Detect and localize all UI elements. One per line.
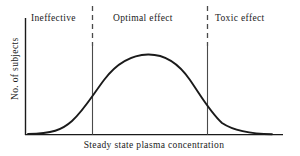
- x-axis-label: Steady state plasma concentration: [25, 141, 283, 151]
- distribution-curve: [28, 54, 272, 134]
- zone-label-optimal: Optimal effect: [113, 14, 173, 24]
- y-axis-label: No. of subjects: [11, 26, 21, 112]
- zone-label-toxic: Toxic effect: [215, 14, 265, 24]
- therapeutic-window-chart: Ineffective Optimal effect Toxic effect …: [0, 0, 300, 156]
- zone-label-ineffective: Ineffective: [31, 14, 76, 24]
